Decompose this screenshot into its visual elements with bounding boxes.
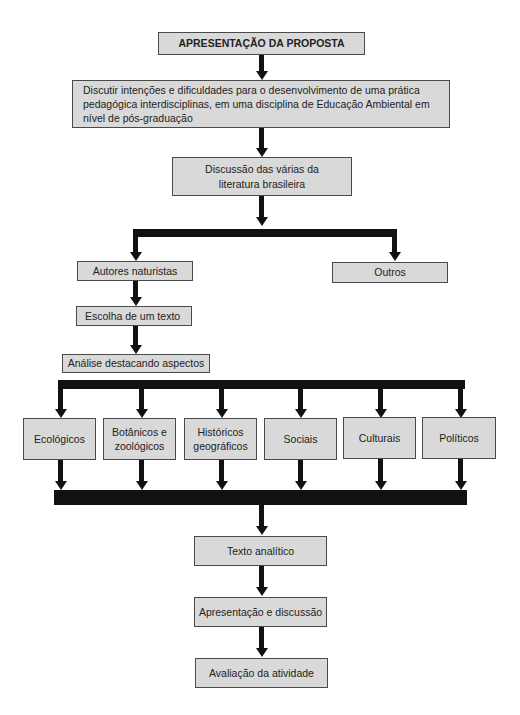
node-aspect-social: Sociais (264, 418, 337, 460)
node-aspect-label: Ecológicos (34, 432, 85, 446)
arrow-shaft (259, 627, 264, 649)
arrow-head-icon (375, 481, 387, 490)
node-analytic-text: Texto analítico (194, 536, 327, 566)
node-aspect-historical-geographical: Históricos geográficos (184, 418, 257, 460)
node-evaluation-label: Avaliação da atividade (209, 666, 314, 680)
arrow-shaft (58, 460, 63, 482)
arrow-head-icon (55, 409, 67, 418)
node-aspect-cultural: Culturais (343, 417, 416, 459)
node-proposal: APRESENTAÇÃO DA PROPOSTA (158, 32, 365, 55)
node-discuss-intentions: Discutir intenções e dificuldades para o… (72, 80, 450, 128)
arrow-shaft (298, 460, 303, 482)
arrow-head-icon (295, 481, 307, 490)
node-choose-text: Escolha de um texto (76, 306, 192, 326)
arrow-shaft (133, 281, 138, 298)
arrow-shaft (378, 459, 383, 482)
node-choose-text-label: Escolha de um texto (85, 309, 180, 323)
split-bar (133, 229, 397, 237)
arrow-head-icon (136, 481, 148, 490)
arrow-head-icon (256, 217, 268, 226)
arrow-shaft (259, 196, 264, 218)
distribution-bar (58, 380, 465, 389)
node-discuss-intentions-label: Discutir intenções e dificuldades para o… (83, 83, 439, 126)
arrow-shaft (219, 385, 224, 410)
merge-bar (54, 490, 467, 505)
arrow-shaft (259, 55, 264, 72)
arrow-shaft (259, 566, 264, 588)
arrow-shaft (219, 460, 224, 482)
arrow-head-icon (216, 409, 228, 418)
node-aspect-label: Sociais (284, 432, 318, 446)
arrow-head-icon (55, 481, 67, 490)
arrow-head-icon (256, 648, 268, 657)
arrow-shaft (133, 326, 138, 346)
arrow-shaft (259, 128, 264, 149)
arrow-head-icon (130, 345, 142, 354)
node-aspect-label: Históricos geográficos (189, 425, 252, 453)
arrow-head-icon (256, 148, 268, 157)
arrow-shaft (139, 385, 144, 410)
arrow-head-icon (295, 409, 307, 418)
arrow-head-icon (256, 587, 268, 596)
node-analysis-label: Análise destacando aspectos (68, 356, 205, 370)
node-aspect-political: Políticos (422, 417, 496, 459)
node-aspect-label: Botânicos e zoológicos (110, 425, 169, 453)
node-aspect-ecological: Ecológicos (23, 418, 96, 460)
node-proposal-label: APRESENTAÇÃO DA PROPOSTA (178, 36, 344, 50)
node-others-label: Outros (374, 265, 406, 279)
arrow-shaft (139, 460, 144, 482)
node-presentation-label: Apresentação e discussão (199, 605, 322, 619)
arrow-shaft (58, 385, 63, 410)
node-presentation: Apresentação e discussão (194, 597, 327, 627)
node-analytic-text-label: Texto analítico (227, 544, 294, 558)
node-evaluation: Avaliação da atividade (195, 658, 328, 688)
arrow-head-icon (389, 252, 401, 261)
node-discuss-literature: Discussão das várias da literatura brasi… (172, 157, 352, 196)
node-discuss-literature-label: Discussão das várias da literatura brasi… (203, 162, 321, 190)
arrow-head-icon (130, 297, 142, 306)
arrow-head-icon (216, 481, 228, 490)
node-analysis: Análise destacando aspectos (62, 354, 210, 373)
node-aspect-label: Políticos (439, 431, 479, 445)
node-naturalist-authors: Autores naturistas (77, 261, 193, 281)
arrow-shaft (458, 459, 463, 482)
arrow-head-icon (256, 71, 268, 80)
node-aspect-label: Culturais (359, 431, 400, 445)
arrow-head-icon (130, 252, 142, 261)
arrow-shaft (378, 385, 383, 410)
arrow-head-icon (455, 481, 467, 490)
arrow-shaft (133, 233, 138, 253)
node-naturalist-authors-label: Autores naturistas (93, 264, 178, 278)
arrow-shaft (259, 505, 264, 527)
arrow-shaft (392, 233, 397, 253)
arrow-shaft (458, 385, 463, 410)
arrow-head-icon (136, 409, 148, 418)
arrow-head-icon (256, 526, 268, 535)
node-aspect-botanical-zoological: Botânicos e zoológicos (103, 418, 176, 460)
node-others: Outros (332, 262, 448, 283)
arrow-shaft (298, 385, 303, 410)
